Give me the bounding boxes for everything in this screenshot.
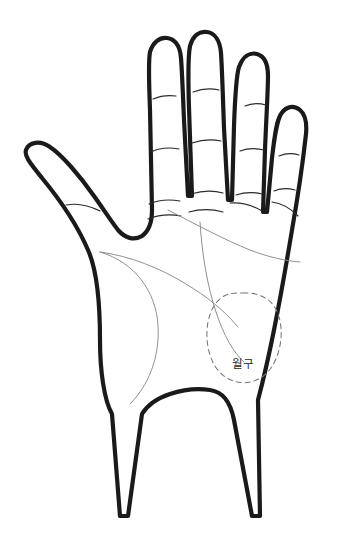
palm-illustration-svg: 월구 [0, 0, 340, 546]
palm-diagram-figure: 월구 [0, 0, 340, 546]
mount-of-luna-label: 월구 [232, 358, 255, 370]
